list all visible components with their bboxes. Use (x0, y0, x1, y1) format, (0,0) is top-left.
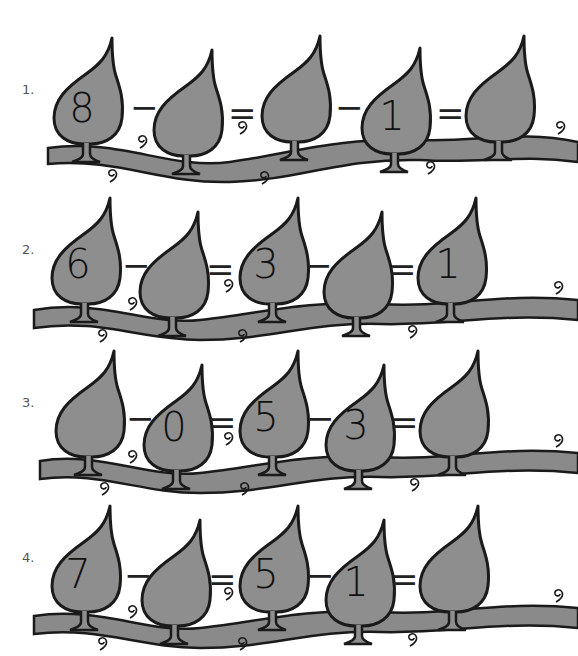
equals-sign: = (390, 405, 419, 439)
leaf-value[interactable]: 1 (418, 244, 478, 284)
leaf-value[interactable]: 5 (236, 554, 296, 594)
equation-row-1: 1. 8 1 − = − = (0, 30, 578, 190)
equals-sign: = (208, 562, 237, 596)
leaf-icon (154, 50, 223, 174)
equation-row-3: 3. 0 5 3 − = − = (0, 347, 578, 507)
minus-sign: − (122, 248, 151, 282)
vine-icon (40, 451, 578, 493)
curl-icon (109, 170, 117, 182)
curl-icon (101, 483, 109, 495)
leaf-value[interactable]: 1 (326, 562, 386, 602)
row-number: 4. (22, 550, 34, 565)
curl-icon (411, 479, 419, 491)
leaf-value[interactable]: 3 (236, 244, 296, 284)
curl-icon (555, 282, 563, 294)
curl-icon (129, 606, 137, 618)
minus-sign: − (304, 248, 333, 282)
equation-row-4: 4. 7 5 1 − = − = (0, 500, 578, 656)
minus-sign: − (335, 90, 364, 124)
leaf-icon (56, 351, 125, 475)
curl-icon (99, 638, 107, 650)
curl-icon (557, 122, 565, 134)
curl-icon (129, 298, 137, 310)
curl-icon (139, 136, 147, 148)
equals-sign: = (388, 252, 417, 286)
curl-icon (427, 162, 435, 174)
leaf-value[interactable]: 7 (48, 554, 108, 594)
curl-icon (409, 326, 417, 338)
equals-sign: = (390, 562, 419, 596)
leaf-value[interactable]: 6 (48, 244, 108, 284)
row-number: 1. (22, 82, 34, 97)
leaf-value[interactable]: 8 (52, 88, 112, 128)
leaf-icon (262, 36, 331, 160)
row-number: 2. (22, 242, 34, 257)
curl-icon (555, 590, 563, 602)
minus-sign: − (130, 90, 159, 124)
minus-sign: − (124, 558, 153, 592)
leaf-value[interactable]: 3 (326, 405, 386, 445)
minus-sign: − (306, 401, 335, 435)
equals-sign: = (206, 252, 235, 286)
vine-icon (34, 298, 578, 340)
curl-icon (129, 451, 137, 463)
row-number: 3. (22, 395, 34, 410)
curl-icon (99, 330, 107, 342)
leaf-value[interactable]: 1 (362, 96, 422, 136)
vine-icon (34, 606, 578, 648)
equation-row-2: 2. 6 3 1 − = − = (0, 192, 578, 352)
equals-sign: = (208, 405, 237, 439)
equals-sign: = (436, 96, 465, 130)
curl-icon (409, 634, 417, 646)
equals-sign: = (228, 96, 257, 130)
minus-sign: − (126, 401, 155, 435)
minus-sign: − (306, 558, 335, 592)
leaf-value[interactable]: 5 (236, 397, 296, 437)
curl-icon (555, 435, 563, 447)
